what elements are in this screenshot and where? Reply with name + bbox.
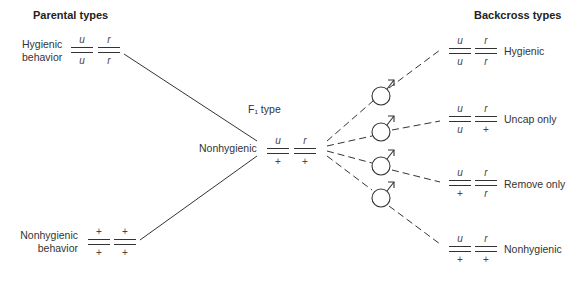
backcross-nonhygienic-genotype: u + r + bbox=[449, 233, 501, 267]
f1-genotype: u + r + bbox=[267, 135, 319, 169]
chromosome-bar bbox=[71, 47, 93, 53]
chromosome-bar bbox=[475, 116, 497, 122]
backcross-remove-only-label: Remove only bbox=[504, 178, 565, 191]
backcross-remove-only-genotype: u + r r bbox=[449, 167, 501, 201]
parental-nonhygienic-genotype: + + + + bbox=[88, 226, 140, 260]
chromosome-bar bbox=[88, 239, 110, 245]
male-icon bbox=[372, 150, 394, 175]
chromosome-bar bbox=[475, 48, 497, 54]
dashed-line-2b bbox=[392, 121, 440, 130]
backcross-hygienic-label: Hygienic bbox=[504, 45, 544, 58]
f1-type-heading: F₁ type bbox=[248, 103, 281, 116]
backcross-uncap-only-genotype: u u r + bbox=[449, 103, 501, 137]
dashed-line-3b bbox=[392, 170, 440, 182]
parental-hygienic-label: Hygienic behavior bbox=[22, 38, 62, 64]
backcross-nonhygienic-label: Nonhygienic bbox=[504, 243, 562, 256]
chromosome-bar bbox=[449, 48, 471, 54]
male-icon bbox=[372, 182, 394, 207]
dashed-line-1a bbox=[327, 101, 373, 141]
male-icon bbox=[372, 80, 394, 105]
backcross-types-heading: Backcross types bbox=[474, 9, 561, 21]
chromosome-bar bbox=[449, 246, 471, 252]
dashed-line-1b bbox=[389, 50, 440, 88]
chromosome-bar bbox=[267, 148, 289, 154]
parental-hygienic-genotype: u u r r bbox=[71, 34, 123, 68]
parental-types-heading: Parental types bbox=[33, 9, 108, 21]
f1-nonhygienic-label: Nonhygienic bbox=[199, 142, 257, 155]
parental-nonhygienic-line bbox=[140, 156, 257, 240]
backcross-uncap-only-label: Uncap only bbox=[504, 113, 557, 126]
chromosome-bar bbox=[475, 246, 497, 252]
dashed-line-2a bbox=[327, 136, 372, 146]
chromosome-bar bbox=[449, 180, 471, 186]
chromosome-bar bbox=[449, 116, 471, 122]
chromosome-bar bbox=[475, 180, 497, 186]
chromosome-bar bbox=[294, 148, 316, 154]
dashed-line-4b bbox=[389, 206, 440, 244]
chromosome-bar bbox=[98, 47, 120, 53]
male-icon bbox=[372, 116, 394, 141]
parental-hygienic-line bbox=[124, 54, 257, 141]
dashed-line-3a bbox=[327, 151, 372, 163]
backcross-hygienic-genotype: u u r r bbox=[449, 35, 501, 69]
chromosome-bar bbox=[114, 239, 136, 245]
parental-nonhygienic-label: Nonhygienic behavior bbox=[20, 229, 78, 255]
